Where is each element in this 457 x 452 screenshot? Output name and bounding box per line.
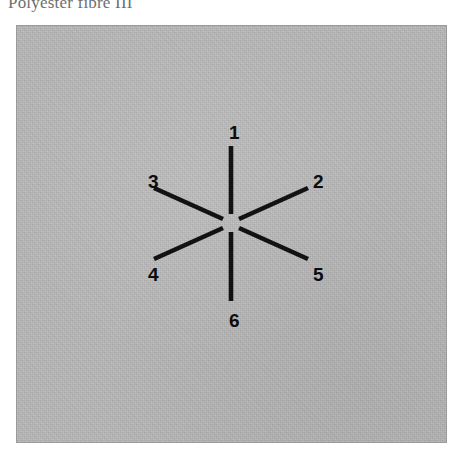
six-spoke-star-diagram xyxy=(17,26,447,443)
micrograph-panel: 1 2 3 4 5 6 xyxy=(16,25,447,443)
spoke-line-3 xyxy=(154,188,223,219)
spoke-line-4 xyxy=(154,228,223,259)
spoke-label-4: 4 xyxy=(148,265,159,284)
spoke-label-5: 5 xyxy=(313,265,324,284)
spoke-line-5 xyxy=(239,228,308,259)
spoke-line-2 xyxy=(239,188,308,219)
spoke-label-3: 3 xyxy=(148,172,159,191)
spoke-label-2: 2 xyxy=(313,172,324,191)
spoke-label-6: 6 xyxy=(229,311,240,330)
figure-caption: Polyester fibre III xyxy=(8,0,133,12)
spoke-label-1: 1 xyxy=(229,123,240,142)
